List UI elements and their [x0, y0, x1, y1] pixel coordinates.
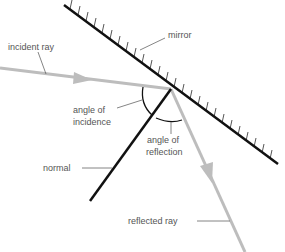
angle-reflection-arc [156, 118, 182, 122]
incident-ray-leader [38, 52, 46, 74]
incident-ray-label: incident ray [8, 42, 55, 52]
angle-reflection-label-line2: reflection [146, 147, 183, 157]
reflection-diagram: incident ray mirror angle of incidence a… [0, 0, 285, 252]
angle-incidence-label-line1: angle of [73, 105, 106, 115]
angle-incidence-arc [142, 87, 152, 115]
mirror-label: mirror [168, 30, 192, 40]
mirror-leader [140, 38, 165, 50]
reflected-ray-label: reflected ray [128, 216, 178, 226]
normal-label: normal [43, 163, 71, 173]
reflected-arrow-icon [200, 162, 213, 183]
angle-incidence-label-line2: incidence [73, 117, 111, 127]
angle-incidence-leader [117, 100, 142, 108]
angle-reflection-label-line1: angle of [147, 135, 180, 145]
